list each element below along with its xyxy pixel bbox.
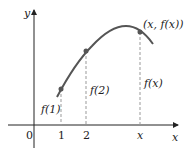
fx-label: f(x) [143,77,163,90]
y-axis-label: y [23,7,31,20]
x-axis-label: x [172,131,179,144]
point-1 [59,87,64,92]
diagram-canvas: y x 0 1 2 x f(1) f(2) f(x) (x, f(x)) [0,0,193,152]
f1-label: f(1) [40,103,61,116]
point-2 [84,49,89,54]
function-diagram: y x 0 1 2 x f(1) f(2) f(x) (x, f(x)) [0,0,193,152]
tick-label-2: 2 [83,129,90,142]
origin-label: 0 [26,129,33,142]
point-x-label: (x, f(x)) [143,18,184,31]
f2-label: f(2) [89,84,110,97]
tick-label-1: 1 [58,129,65,142]
tick-label-x: x [137,129,144,142]
point-x [138,30,143,35]
